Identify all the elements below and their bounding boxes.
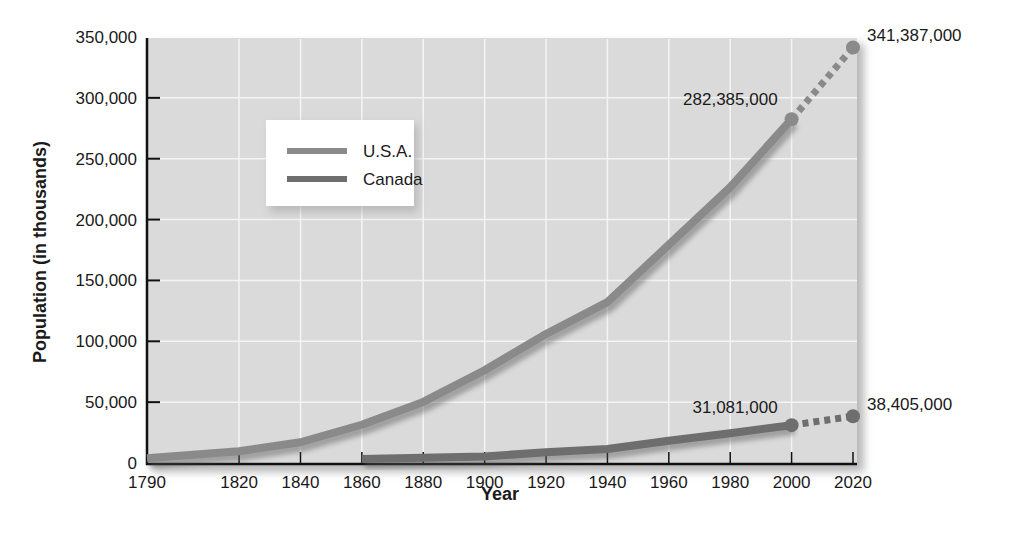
- data-point-marker: [785, 112, 799, 126]
- data-point-marker: [846, 40, 860, 54]
- x-tick-label: 1940: [589, 473, 627, 492]
- x-tick-label: 1790: [128, 473, 166, 492]
- x-tick-label: 1860: [343, 473, 381, 492]
- y-tick-label: 150,000: [76, 271, 137, 290]
- population-line-chart: 050,000100,000150,000200,000250,000300,0…: [0, 0, 1010, 554]
- data-label-annotation: 38,405,000: [867, 395, 952, 414]
- x-tick-label: 2020: [834, 473, 872, 492]
- x-tick-label: 1820: [220, 473, 258, 492]
- y-tick-label: 200,000: [76, 211, 137, 230]
- data-label-annotation: 31,081,000: [693, 398, 778, 417]
- x-axis-title: Year: [481, 484, 519, 504]
- x-tick-label: 1840: [282, 473, 320, 492]
- y-axis-title: Population (in thousands): [30, 141, 50, 363]
- data-label-annotation: 341,387,000: [867, 26, 962, 45]
- data-point-marker: [846, 409, 860, 423]
- y-tick-label: 50,000: [85, 393, 137, 412]
- x-tick-label: 1980: [711, 473, 749, 492]
- y-tick-label: 100,000: [76, 332, 137, 351]
- x-tick-label: 1880: [404, 473, 442, 492]
- x-tick-label: 1960: [650, 473, 688, 492]
- legend: U.S.A. Canada: [266, 120, 423, 212]
- x-tick-label: 2000: [773, 473, 811, 492]
- legend-label-canada: Canada: [363, 170, 423, 189]
- y-tick-label: 250,000: [76, 150, 137, 169]
- data-point-marker: [785, 418, 799, 432]
- x-tick-label: 1920: [527, 473, 565, 492]
- data-label-annotation: 282,385,000: [683, 90, 778, 109]
- y-tick-label: 350,000: [76, 28, 137, 47]
- y-tick-label: 300,000: [76, 89, 137, 108]
- legend-label-usa: U.S.A.: [363, 142, 412, 161]
- y-tick-label: 0: [128, 454, 137, 473]
